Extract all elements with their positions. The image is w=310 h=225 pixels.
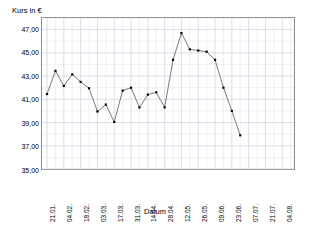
y-axis-tick-label: 35,00: [1, 167, 39, 174]
y-axis-tick-labels: 35,0037,0039,0041,0043,0045,0047,00: [0, 17, 39, 170]
y-axis-tick-label: 45,00: [1, 49, 39, 56]
y-axis-tick-label: 41,00: [1, 96, 39, 103]
data-series-line: [42, 18, 294, 169]
y-axis-tick-label: 37,00: [1, 143, 39, 150]
x-axis-title: Datum: [0, 207, 310, 216]
stock-price-chart: Kurs in € 35,0037,0039,0041,0043,0045,00…: [0, 0, 310, 225]
y-axis-tick-label: 39,00: [1, 119, 39, 126]
y-axis-title: Kurs in €: [12, 6, 42, 15]
y-axis-tick-label: 47,00: [1, 25, 39, 32]
y-axis-tick-label: 43,00: [1, 72, 39, 79]
plot-area: [41, 17, 295, 170]
x-axis-tick-labels: 21.01.04.02.18.02.03.03.17.03.31.03.14.0…: [41, 172, 295, 206]
